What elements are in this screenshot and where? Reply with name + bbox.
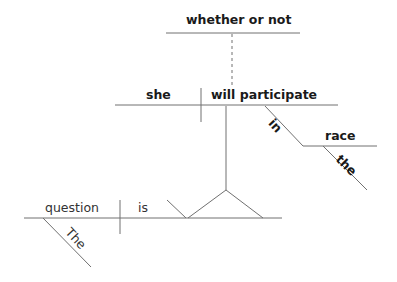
- word-clause-subject: she: [146, 89, 171, 102]
- word-clause-verb: will participate: [211, 89, 317, 102]
- word-main-subject: question: [45, 202, 99, 215]
- pedestal: [188, 190, 263, 218]
- word-main-verb: is: [138, 202, 148, 215]
- word-prep-object: race: [325, 130, 356, 143]
- word-conjunction: whether or not: [186, 14, 291, 27]
- predicate-slant: [167, 200, 186, 218]
